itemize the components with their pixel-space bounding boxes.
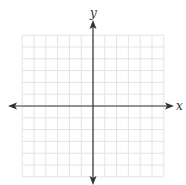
y-axis-label: y [89,6,97,20]
x-axis-label: x [176,99,183,113]
coordinate-plane: x y [0,0,186,185]
axes [8,20,174,185]
